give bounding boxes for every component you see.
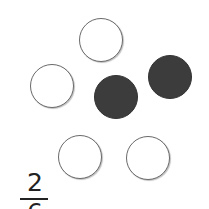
shaded-circle bbox=[148, 55, 192, 99]
fraction-denominator: 6 bbox=[20, 200, 50, 209]
unshaded-circle bbox=[79, 18, 123, 62]
shaded-circle bbox=[94, 75, 138, 119]
fraction: 2 6 bbox=[20, 170, 50, 209]
unshaded-circle bbox=[126, 136, 170, 180]
unshaded-circle bbox=[58, 135, 102, 179]
fraction-numerator: 2 bbox=[20, 170, 50, 196]
unshaded-circle bbox=[30, 64, 74, 108]
